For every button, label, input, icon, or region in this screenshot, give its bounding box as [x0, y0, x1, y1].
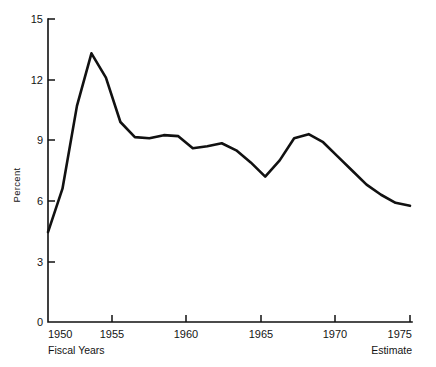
x-tick-labels: 1950 1955 1960 1965 1970 1975: [48, 328, 412, 340]
line-chart: Percent 15 12 9 6 3 0: [0, 0, 436, 367]
x-tick-label: 1950: [48, 328, 72, 340]
x-tick-label: 1970: [323, 328, 347, 340]
y-tick-label: 3: [37, 256, 43, 268]
x-axis-caption-right: Estimate: [371, 344, 412, 356]
x-tick-label: 1965: [249, 328, 273, 340]
x-tick-label: 1975: [388, 328, 412, 340]
axis-lines: [48, 19, 412, 322]
x-axis-caption-left: Fiscal Years: [48, 344, 105, 356]
y-tick-label: 9: [37, 134, 43, 146]
chart-container: Percent 15 12 9 6 3 0: [0, 0, 436, 367]
x-tick-label: 1955: [100, 328, 124, 340]
y-tick-label: 15: [31, 13, 43, 25]
y-axis-title: Percent: [11, 168, 22, 203]
y-tick-label: 0: [37, 316, 43, 328]
x-tick-marks: [112, 315, 410, 322]
x-tick-label: 1960: [174, 328, 198, 340]
data-series-line: [48, 53, 410, 232]
y-tick-label: 12: [31, 74, 43, 86]
y-tick-labels: 15 12 9 6 3 0: [31, 13, 43, 328]
y-tick-label: 6: [37, 195, 43, 207]
